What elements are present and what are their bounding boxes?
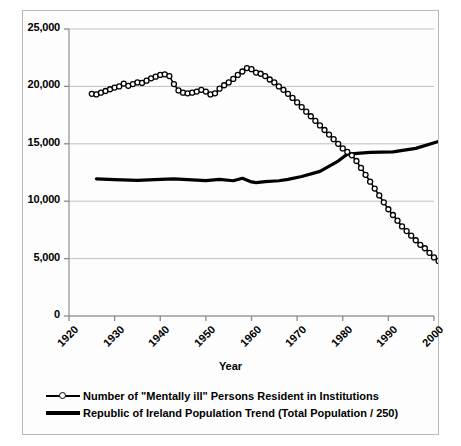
y-axis-tick-label: 25,000 (4, 21, 60, 33)
y-axis-tick-label: 10,000 (4, 193, 60, 205)
y-axis-tick-label: 20,000 (4, 78, 60, 90)
chart-page: 05,00010,00015,00020,00025,000 192019301… (0, 0, 461, 446)
legend-key-line-with-circle-marker (46, 390, 80, 402)
chart-legend: Number of "Mentally ill" Persons Residen… (46, 387, 446, 421)
y-axis-tick-label: 0 (4, 308, 60, 320)
series-population-line (96, 142, 438, 183)
y-tick-marks (64, 29, 69, 316)
x-axis-title: Year (0, 360, 461, 372)
legend-label-institutions: Number of "Mentally ill" Persons Residen… (83, 390, 379, 402)
y-axis-tick-label: 15,000 (4, 136, 60, 148)
series-institutions-line (92, 68, 438, 261)
x-tick-marks (69, 316, 434, 321)
series-institutions-markers (89, 66, 438, 264)
y-axis-tick-label: 5,000 (4, 251, 60, 263)
legend-label-population: Republic of Ireland Population Trend (To… (83, 407, 398, 419)
legend-item-population: Republic of Ireland Population Trend (To… (46, 404, 446, 421)
gridlines (69, 29, 434, 259)
legend-key-thick-line (46, 407, 80, 419)
legend-item-institutions: Number of "Mentally ill" Persons Residen… (46, 387, 446, 404)
